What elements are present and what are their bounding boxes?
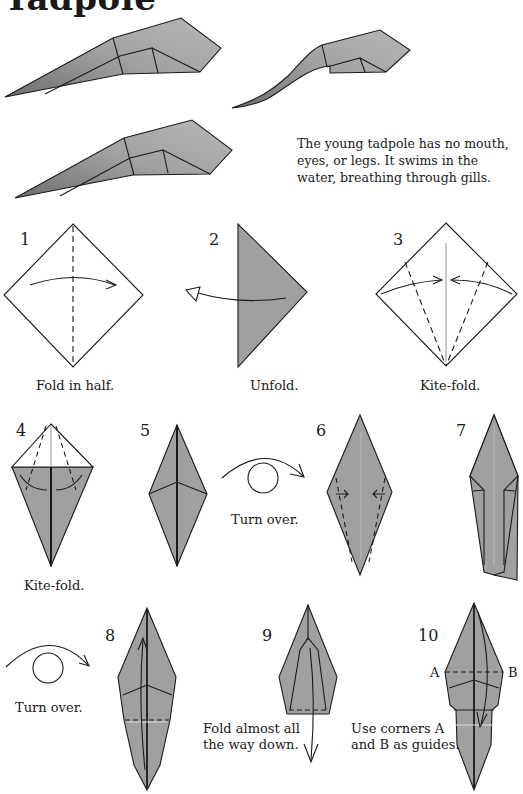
- step-5-diagram: [149, 425, 207, 566]
- step-number-2: 2: [209, 230, 219, 249]
- step-caption-10: Use corners A and B as guides.: [351, 721, 460, 753]
- step-4-diagram: [12, 424, 93, 566]
- caption-line: and B as guides.: [351, 737, 460, 753]
- turn-over-icon-2: [6, 645, 89, 683]
- step-caption-1: Fold in half.: [36, 378, 114, 393]
- step-number-3: 3: [393, 230, 403, 249]
- step-number-4: 4: [16, 421, 26, 440]
- diagram-canvas: [0, 0, 523, 794]
- label-a: A: [430, 665, 439, 680]
- step-10-diagram: [445, 603, 503, 790]
- caption-line: Fold almost all: [203, 721, 300, 737]
- caption-line: the way down.: [203, 737, 300, 753]
- step-number-6: 6: [316, 421, 326, 440]
- step-caption-5: Turn over.: [231, 512, 299, 527]
- step-caption-9: Fold almost all the way down.: [203, 721, 300, 753]
- step-number-1: 1: [20, 230, 30, 249]
- step-7-diagram: [470, 415, 518, 580]
- description-line: water, breathing through gills.: [297, 169, 523, 186]
- step-number-10: 10: [418, 626, 438, 645]
- step-number-8: 8: [105, 626, 115, 645]
- step-2-diagram: [186, 224, 309, 367]
- step-caption-2: Unfold.: [250, 378, 299, 393]
- description-line: eyes, or legs. It swims in the: [297, 152, 523, 169]
- tadpole-model-3: [15, 120, 232, 198]
- turn-over-icon: [222, 458, 304, 493]
- step-number-7: 7: [456, 421, 466, 440]
- step-caption-4: Kite-fold.: [24, 578, 84, 593]
- step-number-9: 9: [262, 626, 272, 645]
- tadpole-model-2: [232, 30, 410, 108]
- description-line: The young tadpole has no mouth,: [297, 135, 523, 152]
- step-6-diagram: [327, 415, 392, 575]
- step-number-5: 5: [140, 421, 150, 440]
- description-text: The young tadpole has no mouth, eyes, or…: [297, 135, 523, 186]
- tadpole-model-1: [5, 18, 221, 97]
- step-caption-7: Turn over.: [15, 700, 83, 715]
- step-8-diagram: [118, 608, 176, 790]
- caption-line: Use corners A: [351, 721, 460, 737]
- label-b: B: [508, 665, 518, 680]
- step-caption-3: Kite-fold.: [420, 378, 480, 393]
